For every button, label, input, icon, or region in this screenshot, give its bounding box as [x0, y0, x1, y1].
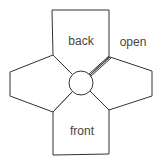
front-label: front: [70, 124, 95, 138]
center-circle: [69, 71, 93, 95]
back-label: back: [68, 34, 94, 48]
open-label: open: [120, 35, 147, 49]
box-net-diagram: back front open: [0, 0, 160, 163]
